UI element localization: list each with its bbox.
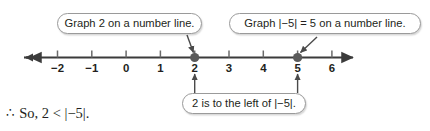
callout-graph-2: Graph 2 on a number line. (57, 13, 202, 34)
tick-label-4: 4 (249, 63, 277, 74)
tick-label-neg2: −2 (44, 63, 72, 74)
number-line-figure: −2 −1 0 1 2 3 4 5 6 Graph 2 on a number … (0, 0, 430, 131)
callout-left-of: 2 is to the left of |−5|. (182, 93, 306, 114)
tick-label-5: 5 (284, 63, 312, 74)
leader-line-graph-abs5 (301, 37, 318, 53)
tick-label-0: 0 (112, 63, 140, 74)
leader-line-graph-2 (187, 35, 193, 53)
tick-label-neg1: −1 (78, 63, 106, 74)
therefore-icon: ∴ (6, 106, 14, 119)
tick-label-1: 1 (146, 63, 174, 74)
conclusion-text: So, 2 < |−5|. (19, 106, 89, 121)
callout-graph-2-text: Graph 2 on a number line. (65, 17, 195, 28)
callout-graph-abs-5: Graph |−5| = 5 on a number line. (229, 13, 421, 34)
point-dot-2 (190, 53, 199, 62)
tick-label-2: 2 (181, 63, 209, 74)
callout-graph-abs-5-text: Graph |−5| = 5 on a number line. (244, 17, 405, 28)
axis-line (24, 53, 353, 61)
conclusion-line: ∴ So, 2 < |−5|. (6, 106, 89, 121)
point-dot-5 (293, 53, 302, 62)
leader-lines-left-of (195, 74, 298, 93)
tick-label-6: 6 (318, 63, 346, 74)
tick-label-3: 3 (215, 63, 243, 74)
callout-left-of-text: 2 is to the left of |−5|. (192, 97, 296, 108)
